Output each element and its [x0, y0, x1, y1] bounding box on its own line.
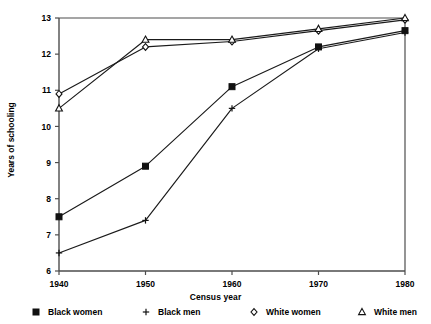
legend-label: Black men: [158, 307, 201, 317]
chart-figure: Years of schooling 678910111213 19401950…: [0, 0, 431, 324]
chart-legend: Black womenBlack menWhite womenWhite men: [0, 303, 431, 321]
legend-item: White men: [356, 303, 417, 321]
series-line-white-women: [59, 20, 405, 94]
series-markers: [56, 14, 409, 256]
series-line-white-men: [59, 18, 405, 108]
legend-label: White women: [266, 307, 321, 317]
data-point-black-men-1940: [56, 250, 62, 256]
y-axis-ticks: 678910111213: [42, 13, 59, 276]
legend-item: Black women: [30, 303, 102, 321]
legend-marker-open-triangle-icon: [356, 306, 368, 318]
x-axis-title-wrap: Census year: [0, 286, 431, 304]
legend-label: White men: [374, 307, 417, 317]
legend-marker-filled-square-icon: [30, 306, 42, 318]
data-point-white-women-1940: [56, 91, 62, 98]
data-point-black-women-1960: [229, 84, 235, 90]
legend-label: Black women: [48, 307, 102, 317]
data-point-black-women-1940: [56, 214, 62, 220]
y-tick-label: 13: [42, 13, 52, 23]
series-line-black-women: [59, 31, 405, 217]
y-tick-label: 10: [42, 122, 52, 132]
legend-item: White women: [248, 303, 321, 321]
y-tick-label: 11: [42, 85, 51, 95]
y-tick-label: 7: [46, 230, 51, 240]
data-point-white-women-1950: [143, 44, 149, 51]
y-tick-label: 12: [42, 49, 52, 59]
x-axis-title: Census year: [190, 292, 242, 302]
y-tick-label: 8: [46, 194, 51, 204]
y-axis-title-wrap: Years of schooling: [3, 0, 19, 280]
y-tick-label: 9: [46, 158, 51, 168]
legend-marker-plus-icon: [140, 306, 152, 318]
y-axis-title: Years of schooling: [6, 102, 16, 178]
y-tick-label: 6: [46, 266, 51, 276]
legend-marker-open-diamond-icon: [248, 306, 260, 318]
legend-item: Black men: [140, 303, 201, 321]
series-lines: [59, 18, 405, 253]
line-chart-plot: 678910111213 19401950196019701980: [0, 0, 431, 324]
data-point-black-women-1950: [143, 163, 149, 169]
data-point-white-men-1940: [56, 105, 63, 111]
